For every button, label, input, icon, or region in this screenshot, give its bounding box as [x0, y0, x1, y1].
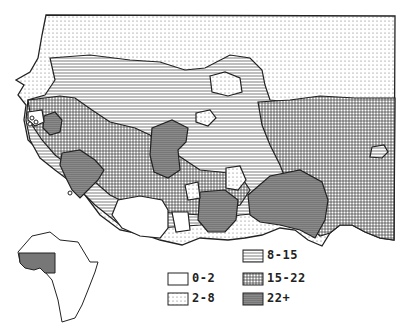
legend — [168, 250, 263, 305]
legend-label: 8-15 — [267, 248, 298, 262]
africa-inset — [18, 232, 98, 322]
legend-item-0-2: 0-2 — [192, 271, 215, 285]
legend-item-2-8: 2-8 — [192, 291, 215, 305]
legend-item-15-22: 15-22 — [267, 271, 306, 285]
legend-swatch-22plus — [243, 293, 263, 305]
legend-label: 2-8 — [192, 291, 215, 305]
legend-label: 0-2 — [192, 271, 215, 285]
legend-swatch-15-22 — [243, 273, 263, 285]
legend-label: 22+ — [267, 291, 290, 305]
legend-swatch-0-2 — [168, 273, 188, 285]
legend-swatch-2-8 — [168, 293, 188, 305]
island — [28, 122, 32, 126]
africa-outline — [18, 232, 98, 322]
africa-inset-highlight — [19, 253, 55, 273]
island — [68, 191, 72, 195]
island — [34, 120, 38, 124]
legend-item-8-15: 8-15 — [267, 248, 298, 262]
island — [30, 116, 34, 120]
region-0-2-coast — [112, 196, 168, 238]
region-2-8-island-4 — [185, 182, 200, 200]
legend-swatch-8-15 — [243, 250, 263, 262]
legend-item-22plus: 22+ — [267, 291, 290, 305]
legend-label: 15-22 — [267, 271, 306, 285]
map-regions — [16, 15, 395, 246]
